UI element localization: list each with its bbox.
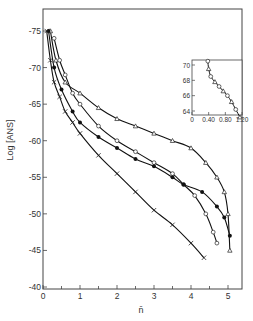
y-tick-label: -70 bbox=[29, 63, 42, 73]
inset-x-tick-label: 0.40 bbox=[202, 116, 215, 123]
plot-frame bbox=[43, 9, 242, 289]
inset-y-tick-label: 66 bbox=[183, 92, 191, 99]
inset-plot: 00.400.801.2070686664 bbox=[183, 59, 249, 123]
inset-x-tick-label: 1.20 bbox=[236, 116, 249, 123]
x-axis-label: n̄ bbox=[139, 305, 144, 315]
y-tick-label: -60 bbox=[29, 136, 42, 146]
inset-y-tick-label: 68 bbox=[183, 77, 191, 84]
x-tick-label: 2 bbox=[115, 291, 120, 301]
y-tick-label: -45 bbox=[29, 245, 42, 255]
x-tick-label: 1 bbox=[78, 291, 83, 301]
x-tick-label: 3 bbox=[152, 291, 157, 301]
x-tick-label: 0 bbox=[41, 291, 46, 301]
y-tick-label: -65 bbox=[29, 99, 42, 109]
y-axis-label: Log [ANS] bbox=[5, 119, 15, 160]
inset-y-tick-label: 64 bbox=[183, 108, 191, 115]
x-tick-label: 4 bbox=[189, 291, 194, 301]
chart: 012345-75-70-65-60-55-50-45-40n̄Log [ANS… bbox=[0, 0, 253, 321]
y-tick-label: -40 bbox=[29, 282, 42, 292]
inset-y-tick-label: 70 bbox=[183, 62, 191, 69]
inset-x-tick-label: 0 bbox=[190, 116, 194, 123]
inset-x-tick-label: 0.80 bbox=[219, 116, 232, 123]
y-tick-label: -75 bbox=[29, 26, 42, 36]
y-tick-label: -55 bbox=[29, 172, 42, 182]
y-tick-label: -50 bbox=[29, 209, 42, 219]
main-plot: 012345-75-70-65-60-55-50-45-40n̄Log [ANS… bbox=[5, 9, 242, 315]
x-tick-label: 5 bbox=[226, 291, 231, 301]
